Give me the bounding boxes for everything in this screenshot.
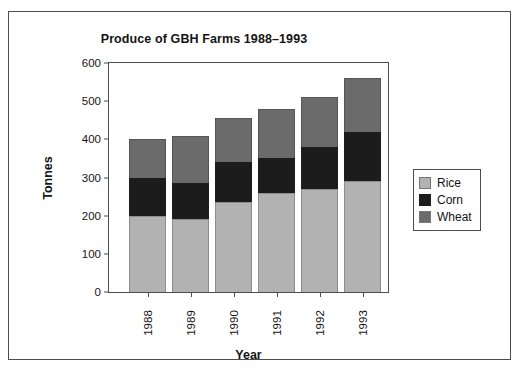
x-axis-tick-label: 1992 <box>312 299 328 351</box>
bar-stack[interactable] <box>344 78 381 292</box>
bar-stack[interactable] <box>258 109 295 292</box>
bar-segment-wheat[interactable] <box>344 78 381 131</box>
x-axis-tick-mark <box>277 292 278 297</box>
bar-segment-corn[interactable] <box>129 178 166 216</box>
bar-segment-rice[interactable] <box>215 202 252 292</box>
y-axis-title-text: Tonnes <box>41 156 55 200</box>
legend-swatch-rice <box>419 177 431 189</box>
bar-segment-wheat[interactable] <box>129 139 166 177</box>
x-axis-tick-mark <box>148 292 149 297</box>
y-axis-tick-mark <box>104 63 109 64</box>
x-axis-tick-label-text: 1989 <box>185 310 197 336</box>
bar-segment-rice[interactable] <box>301 189 338 292</box>
x-axis-tick-label-text: 1988 <box>142 310 154 336</box>
bar-stack[interactable] <box>172 136 209 292</box>
legend-swatch-wheat <box>419 211 431 223</box>
legend-label: Wheat <box>437 210 472 224</box>
bar-stack[interactable] <box>129 139 166 292</box>
x-axis-tick-label-text: 1990 <box>228 310 240 336</box>
plot-area: 0100200300400500600 <box>108 62 389 293</box>
bar-segment-rice[interactable] <box>172 219 209 292</box>
bar-segment-corn[interactable] <box>258 158 295 192</box>
bar-segment-wheat[interactable] <box>215 118 252 162</box>
chart-figure: Produce of GBH Farms 1988–1993 Tonnes 01… <box>8 11 511 360</box>
x-axis-tick-label-text: 1991 <box>271 310 283 336</box>
bar-segment-rice[interactable] <box>258 193 295 292</box>
y-axis-tick-mark <box>104 101 109 102</box>
x-axis-tick-label: 1988 <box>140 299 156 351</box>
y-axis-tick-mark <box>104 139 109 140</box>
x-axis-tick-label-text: 1992 <box>314 310 326 336</box>
legend-item-corn[interactable]: Corn <box>419 191 472 208</box>
y-axis-tick-mark <box>104 177 109 178</box>
bar-stack[interactable] <box>301 97 338 292</box>
bar-segment-wheat[interactable] <box>258 109 295 159</box>
x-axis-tick-label: 1990 <box>226 299 242 351</box>
x-axis-tick-mark <box>320 292 321 297</box>
bar-segment-rice[interactable] <box>344 181 381 292</box>
bar-segment-corn[interactable] <box>215 162 252 202</box>
x-axis-tick-label: 1993 <box>355 299 371 351</box>
x-axis-tick-mark <box>234 292 235 297</box>
bar-segment-rice[interactable] <box>129 216 166 292</box>
x-axis-tick-mark <box>363 292 364 297</box>
bar-segment-wheat[interactable] <box>172 136 209 184</box>
legend-label: Corn <box>437 193 463 207</box>
x-axis-tick-mark <box>191 292 192 297</box>
plot-inner: 0100200300400500600 <box>109 63 388 292</box>
y-axis-title: Tonnes <box>39 62 57 293</box>
chart-title: Produce of GBH Farms 1988–1993 <box>9 32 399 46</box>
legend-item-rice[interactable]: Rice <box>419 174 472 191</box>
legend-item-wheat[interactable]: Wheat <box>419 208 472 225</box>
bar-segment-wheat[interactable] <box>301 97 338 147</box>
legend-label: Rice <box>437 176 461 190</box>
bar-segment-corn[interactable] <box>344 132 381 182</box>
legend-swatch-corn <box>419 194 431 206</box>
bar-segment-corn[interactable] <box>172 183 209 219</box>
x-axis-tick-label: 1991 <box>269 299 285 351</box>
bar-segment-corn[interactable] <box>301 147 338 189</box>
y-axis-tick-mark <box>104 253 109 254</box>
bar-stack[interactable] <box>215 118 252 292</box>
y-axis-tick-mark <box>104 292 109 293</box>
y-axis-tick-mark <box>104 215 109 216</box>
chart-legend: RiceCornWheat <box>413 169 481 231</box>
x-axis-tick-label-text: 1993 <box>357 310 369 336</box>
x-axis-tick-label: 1989 <box>183 299 199 351</box>
